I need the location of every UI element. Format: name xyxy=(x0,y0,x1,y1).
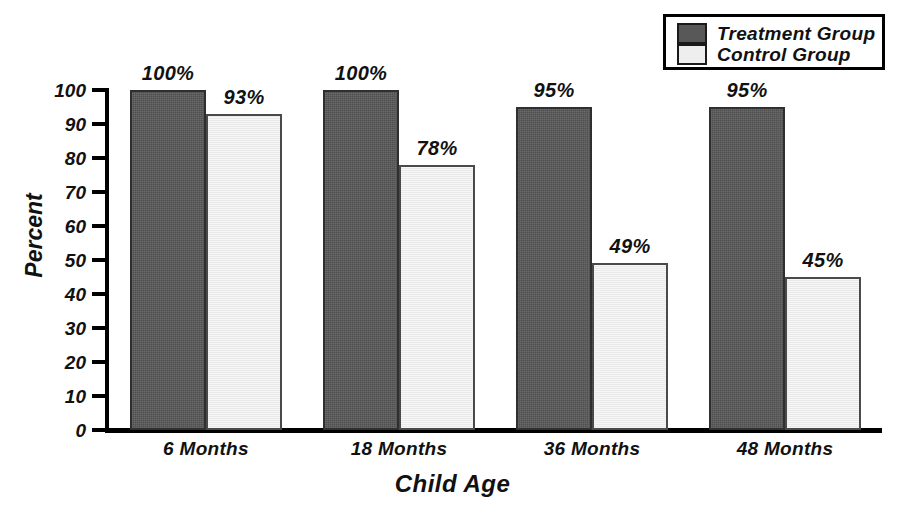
x-axis-title: Child Age xyxy=(0,470,905,498)
y-axis-tick xyxy=(92,190,106,194)
bar-control xyxy=(399,165,475,430)
y-axis-tick-label: 0 xyxy=(30,421,86,440)
y-axis-tick-label: 100 xyxy=(30,81,86,100)
y-axis-tick xyxy=(92,292,106,296)
bar-value-label: 95% xyxy=(534,79,575,102)
y-axis-tick-label: 10 xyxy=(30,387,86,406)
y-axis-tick xyxy=(92,428,106,432)
legend-swatch-control-group xyxy=(677,44,707,65)
bar-value-label: 49% xyxy=(610,235,651,258)
bar-treatment xyxy=(709,107,785,430)
legend-item-control-group: Control Group xyxy=(677,44,851,65)
y-axis-tick xyxy=(92,326,106,330)
legend-label-treatment-group: Treatment Group xyxy=(717,23,875,45)
y-axis-tick xyxy=(92,258,106,262)
y-axis-tick xyxy=(92,122,106,126)
bar-chart: Treatment Group Control Group 0102030405… xyxy=(0,0,905,512)
y-axis-tick xyxy=(92,394,106,398)
y-axis-tick xyxy=(92,88,106,92)
x-axis-category-label: 6 Months xyxy=(163,438,249,460)
bar-value-label: 100% xyxy=(335,62,387,85)
chart-legend: Treatment Group Control Group xyxy=(663,14,885,70)
bar-control xyxy=(206,114,282,430)
y-axis-tick xyxy=(92,360,106,364)
y-axis-tick-label: 90 xyxy=(30,115,86,134)
bar-value-label: 78% xyxy=(417,137,458,160)
x-axis-category-label: 36 Months xyxy=(544,438,641,460)
y-axis-tick xyxy=(92,224,106,228)
bar-treatment xyxy=(130,90,206,430)
y-axis-tick-label: 30 xyxy=(30,319,86,338)
y-axis-tick xyxy=(92,156,106,160)
x-axis-category-label: 18 Months xyxy=(351,438,448,460)
y-axis-title: Percent xyxy=(21,176,48,296)
bar-value-label: 45% xyxy=(803,249,844,272)
y-axis-tick-label: 80 xyxy=(30,149,86,168)
bar-value-label: 95% xyxy=(727,79,768,102)
legend-label-control-group: Control Group xyxy=(717,44,851,66)
x-axis-category-label: 48 Months xyxy=(737,438,834,460)
legend-item-treatment-group: Treatment Group xyxy=(677,23,875,44)
bar-value-label: 100% xyxy=(142,62,194,85)
bar-treatment xyxy=(516,107,592,430)
legend-swatch-treatment-group xyxy=(677,23,707,44)
bar-value-label: 93% xyxy=(224,86,265,109)
bar-control xyxy=(592,263,668,430)
y-axis-tick-label: 20 xyxy=(30,353,86,372)
bar-control xyxy=(785,277,861,430)
bar-treatment xyxy=(323,90,399,430)
